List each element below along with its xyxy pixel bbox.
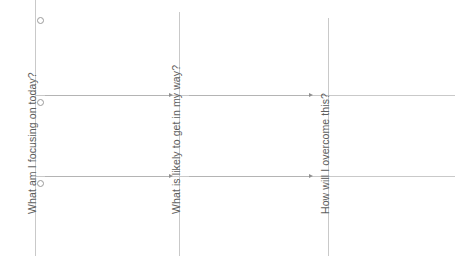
flow-arrow-obstacle-to-overcome-row3 [189,176,309,177]
worksheet-canvas: What am I focusing on today? What is lik… [0,0,466,277]
bullet-circle-row-3[interactable] [37,180,44,187]
flow-arrow-focus-to-obstacle-row3 [45,176,169,177]
flow-arrowhead-obstacle-to-overcome [309,93,313,97]
flow-arrowhead-obstacle-to-overcome-row3 [309,174,313,178]
bullet-circle-row-2[interactable] [37,99,44,106]
column-prompt-focus: What am I focusing on today? [26,72,38,214]
bullet-circle-row-1[interactable] [37,17,44,24]
flow-arrow-focus-to-obstacle [45,95,169,96]
column-prompt-overcome: How will I overcome this? [319,93,331,214]
column-prompt-obstacle: What is likely to get in my way? [170,65,182,214]
flow-arrow-obstacle-to-overcome [189,95,309,96]
